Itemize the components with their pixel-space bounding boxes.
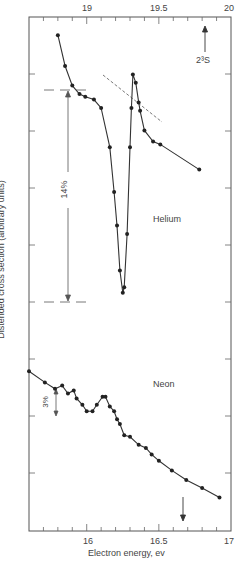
data-point: [157, 459, 161, 463]
data-point: [53, 387, 57, 391]
data-point: [200, 486, 204, 490]
data-point: [108, 145, 112, 149]
data-point: [75, 396, 79, 400]
neon-label: Neon: [153, 380, 175, 389]
top-tick-label-19: 19: [82, 4, 92, 13]
data-point: [83, 95, 87, 99]
data-point: [217, 496, 221, 500]
data-point: [80, 403, 84, 407]
data-point: [115, 224, 119, 228]
data-point: [112, 190, 116, 194]
neon-scale-bar: [54, 389, 58, 416]
chart-figure: [0, 0, 246, 562]
data-point: [197, 168, 201, 172]
data-point: [137, 443, 141, 447]
data-point: [128, 145, 132, 149]
data-point: [103, 395, 107, 399]
data-point: [95, 403, 99, 407]
data-point: [112, 409, 116, 413]
data-point: [142, 128, 146, 132]
plot-frame: [29, 17, 231, 531]
data-point: [134, 81, 138, 85]
data-point: [129, 106, 133, 110]
bottom-tick-label-16: 16: [83, 537, 93, 546]
data-point: [70, 84, 74, 88]
bottom-tick-label-16-5: 16.5: [150, 537, 168, 546]
data-point: [43, 380, 47, 384]
data-point: [66, 392, 70, 396]
data-point: [27, 369, 31, 373]
data-point: [60, 384, 64, 388]
data-point: [184, 478, 188, 482]
data-point: [122, 285, 126, 289]
x-axis-label: Electron energy, ev: [88, 549, 165, 558]
neon-scale-label: 3%: [42, 396, 50, 408]
bottom-tick-label-17: 17: [224, 537, 234, 546]
data-point: [56, 33, 60, 37]
data-point: [144, 446, 148, 450]
data-point: [137, 100, 141, 104]
helium-curve: [58, 35, 199, 293]
data-point: [92, 98, 96, 102]
top-tick-label-19-5: 19.5: [150, 4, 168, 13]
data-point: [118, 268, 122, 272]
data-point: [121, 291, 125, 295]
data-point: [150, 452, 154, 456]
data-point: [170, 468, 174, 472]
data-point: [99, 106, 103, 110]
threshold-arrow-down-icon: [181, 497, 186, 521]
top-tick-label-20: 20: [224, 4, 234, 13]
data-point: [122, 433, 126, 437]
y-axis-label: Distended cross section (arbitrary units…: [0, 180, 6, 339]
data-point: [125, 232, 129, 236]
data-point: [115, 417, 119, 421]
data-point: [72, 388, 76, 392]
state-arrow-up-icon: [203, 26, 208, 52]
data-point: [128, 435, 132, 439]
helium-scale-label: 14%: [60, 180, 69, 198]
data-point: [151, 140, 155, 144]
data-point: [85, 409, 89, 413]
data-curves: [27, 33, 221, 499]
data-point: [158, 142, 162, 146]
data-point: [118, 422, 122, 426]
helium-label: Helium: [153, 215, 181, 224]
state-label: 2³S: [196, 56, 210, 65]
data-point: [78, 92, 82, 96]
data-point: [108, 404, 112, 408]
data-point: [138, 109, 142, 113]
data-point: [131, 72, 135, 76]
data-point: [90, 409, 94, 413]
data-point: [63, 64, 67, 68]
axis-ticks: [29, 17, 231, 531]
